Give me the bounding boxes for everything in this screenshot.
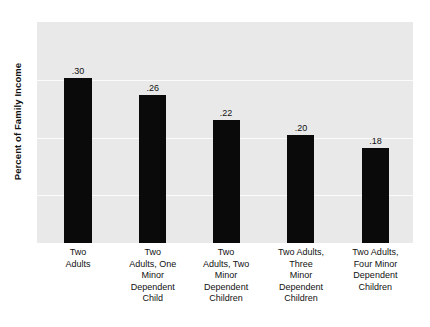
x-axis-category-line: Two — [113, 247, 192, 259]
bar-value-label: .30 — [72, 67, 85, 76]
x-axis-category-line: Adults, Two — [187, 259, 266, 271]
bar-group[interactable]: .26 — [139, 22, 166, 243]
bar-value-label: .22 — [220, 109, 233, 118]
x-axis-category-line: Adults, One — [113, 259, 192, 271]
bar[interactable] — [64, 78, 91, 243]
x-axis-category-label: Two Adults,ThreeMinorDependentChildren — [261, 247, 340, 305]
x-axis-category-line: Adults — [39, 259, 118, 271]
bar[interactable] — [139, 95, 166, 243]
x-axis-category-line: Child — [113, 293, 192, 305]
bar[interactable] — [213, 120, 240, 243]
x-axis-category-line: Three — [261, 259, 340, 271]
x-axis-category-line: Children — [261, 293, 340, 305]
x-axis-category-line: Two Adults, — [261, 247, 340, 259]
x-axis-category-line: Four Minor — [336, 259, 415, 271]
x-axis-category-label: TwoAdults — [39, 247, 118, 270]
x-axis-category-line: Minor — [261, 270, 340, 282]
x-axis-category-line: Dependent — [187, 282, 266, 294]
x-axis-category-line: Children — [336, 282, 415, 294]
bar-value-label: .18 — [369, 137, 382, 146]
x-axis-category-line: Two Adults, — [336, 247, 415, 259]
bar[interactable] — [287, 135, 314, 243]
x-axis-category-label: Two Adults,Four MinorDependentChildren — [336, 247, 415, 293]
x-axis-category-line: Children — [187, 293, 266, 305]
y-axis-title-label: Percent of Family Income — [13, 63, 24, 181]
x-axis-category-line: Dependent — [113, 282, 192, 294]
bars-layer: .30.26.22.20.18 — [37, 22, 413, 243]
x-axis-category-line: Minor — [187, 270, 266, 282]
x-axis-category-line: Dependent — [261, 282, 340, 294]
x-axis-category-label: TwoAdults, TwoMinorDependentChildren — [187, 247, 266, 305]
x-axis-category-line: Two — [187, 247, 266, 259]
y-axis-title: Percent of Family Income — [0, 0, 36, 243]
bar-value-label: .26 — [147, 84, 160, 93]
bar-group[interactable]: .30 — [64, 22, 91, 243]
x-axis-labels: TwoAdultsTwoAdults, OneMinorDependentChi… — [37, 247, 413, 325]
plot-area: .30.26.22.20.18 — [37, 22, 413, 243]
bar-group[interactable]: .18 — [362, 22, 389, 243]
x-axis-category-line: Minor — [113, 270, 192, 282]
x-axis-category-label: TwoAdults, OneMinorDependentChild — [113, 247, 192, 305]
x-axis-category-line: Dependent — [336, 270, 415, 282]
bar-group[interactable]: .22 — [213, 22, 240, 243]
x-axis-category-line: Two — [39, 247, 118, 259]
bar-chart: Percent of Family Income .30.26.22.20.18… — [0, 0, 430, 327]
bar-group[interactable]: .20 — [287, 22, 314, 243]
bar[interactable] — [362, 148, 389, 243]
bar-value-label: .20 — [295, 124, 308, 133]
